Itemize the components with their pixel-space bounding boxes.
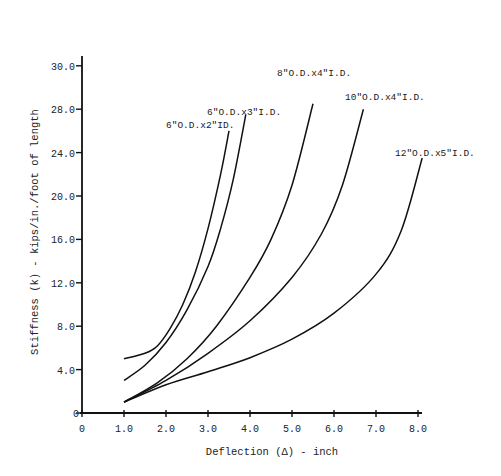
x-tick-label: 8.0 <box>409 424 427 435</box>
x-tick-label: 4.0 <box>241 424 259 435</box>
x-tick-label: 5.0 <box>283 424 301 435</box>
series-curve <box>124 131 229 359</box>
series-curves <box>124 104 422 402</box>
series-label: 6"O.D.x3"I.D. <box>207 107 281 118</box>
y-tick-label: 30.0 <box>51 62 75 73</box>
y-tick-label: 24.0 <box>51 149 75 160</box>
x-tick-label: 6.0 <box>325 424 343 435</box>
x-tick-label: 2.0 <box>157 424 175 435</box>
y-tick-label: 20.0 <box>51 192 75 203</box>
x-tick-label: 0 <box>79 424 85 435</box>
series-label: 10"O.D.x4"I.D. <box>345 92 425 103</box>
y-tick-label: 12.0 <box>51 279 75 290</box>
series-curve <box>124 109 363 402</box>
x-tick-label: 3.0 <box>199 424 217 435</box>
y-ticks: 04.08.012.016.020.024.028.030.0 <box>51 62 82 420</box>
series-label: 6"O.D.x2"ID. <box>166 120 234 131</box>
x-tick-label: 7.0 <box>367 424 385 435</box>
x-tick-label: 1.0 <box>115 424 133 435</box>
series-curve <box>124 115 246 381</box>
y-tick-label: 8.0 <box>57 322 75 333</box>
y-tick-label: 16.0 <box>51 235 75 246</box>
series-label: 12"O.D.x5"I.D. <box>395 148 475 159</box>
y-tick-label: 4.0 <box>57 366 75 377</box>
y-tick-label: 0 <box>73 409 79 420</box>
stiffness-deflection-chart: 01.02.03.04.05.06.07.08.0 04.08.012.016.… <box>0 0 501 476</box>
series-label: 8"O.D.x4"I.D. <box>277 68 351 79</box>
series-curve <box>124 158 422 402</box>
x-axis-title: Deflection (Δ) - inch <box>206 446 338 458</box>
y-axis-title: Stiffness (k) - kips/in./foot of length <box>29 109 41 355</box>
series-labels: 6"O.D.x2"ID.6"O.D.x3"I.D.8"O.D.x4"I.D.10… <box>166 68 475 159</box>
y-tick-label: 28.0 <box>51 105 75 116</box>
